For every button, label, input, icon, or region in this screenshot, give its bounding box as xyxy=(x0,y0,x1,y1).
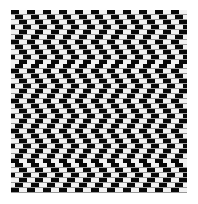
cafe-wall-pattern xyxy=(11,10,187,193)
figure-canvas xyxy=(0,0,198,204)
mortar-line xyxy=(11,192,187,193)
